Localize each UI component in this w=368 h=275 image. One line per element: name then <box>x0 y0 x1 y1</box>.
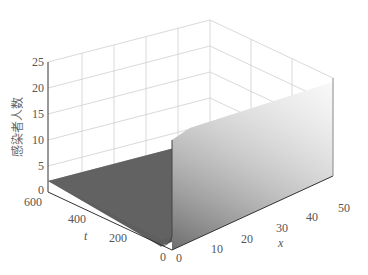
z-axis-ticks: 25 20 15 10 5 0 <box>32 55 44 197</box>
svg-text:30: 30 <box>276 221 288 235</box>
svg-text:40: 40 <box>306 210 318 224</box>
svg-text:15: 15 <box>32 107 44 121</box>
z-axis-label: 感染者人数 <box>10 97 25 157</box>
svg-text:20: 20 <box>32 81 44 95</box>
svg-text:20: 20 <box>241 232 253 246</box>
svg-text:10: 10 <box>32 133 44 147</box>
svg-text:200: 200 <box>109 231 127 245</box>
svg-text:5: 5 <box>38 159 44 173</box>
surface-plot: 25 20 15 10 5 0 600 400 200 0 t 0 10 20 … <box>0 0 368 275</box>
svg-text:25: 25 <box>32 55 44 69</box>
t-axis-label: t <box>84 229 88 243</box>
x-axis-label: x <box>277 236 284 250</box>
svg-text:600: 600 <box>24 195 42 209</box>
svg-text:400: 400 <box>68 212 86 226</box>
svg-text:50: 50 <box>338 201 350 215</box>
svg-text:10: 10 <box>211 242 223 256</box>
svg-text:0: 0 <box>176 251 182 265</box>
svg-text:0: 0 <box>160 250 166 264</box>
